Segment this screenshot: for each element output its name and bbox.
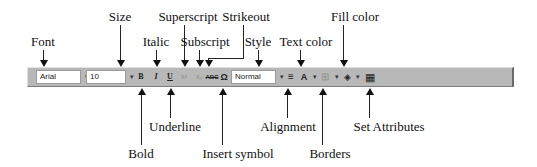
arrow-style — [255, 60, 263, 67]
label-borders: Borders — [309, 147, 350, 161]
borders-button[interactable]: ⊞ — [319, 70, 331, 84]
label-insert-symbol: Insert symbol — [202, 147, 273, 161]
fill-color-button[interactable]: ◈ — [341, 70, 353, 84]
style-select[interactable]: Normal — [231, 70, 276, 84]
arrow-insert-symbol — [219, 88, 227, 95]
arrow-strikeout — [205, 60, 213, 67]
label-superscript: Superscript — [158, 10, 217, 24]
arrow-underline — [167, 88, 175, 95]
leader-line-fill-color — [343, 25, 344, 60]
arrow-text-color — [297, 60, 305, 67]
arrow-borders — [319, 88, 327, 95]
arrow-size — [117, 60, 125, 67]
fill-color-dropdown-arrow-icon[interactable]: ▾ — [354, 70, 362, 84]
text-color-button[interactable]: A — [298, 70, 310, 84]
label-font: Font — [31, 35, 55, 49]
size-select[interactable]: 10 — [86, 70, 126, 84]
leader-line-subscript — [199, 50, 200, 60]
label-fill-color: Fill color — [331, 10, 379, 24]
label-strikeout: Strikeout — [222, 10, 270, 24]
leader-line-insert-symbol — [222, 95, 223, 145]
arrow-fill-color — [340, 60, 348, 67]
set-attributes-button[interactable]: ▦ — [364, 70, 376, 84]
leader-line-italic — [156, 50, 157, 60]
leader-line-font — [43, 50, 44, 60]
italic-button[interactable]: I — [150, 70, 162, 84]
insert-symbol-button[interactable]: Ω — [218, 70, 230, 84]
formatting-toolbar: Arial ▾ 10 ▾ B I U x² x₂ ABC Ω Normal ▾ … — [27, 67, 514, 87]
arrow-font — [40, 60, 48, 67]
arrow-italic — [153, 60, 161, 67]
underline-button[interactable]: U — [164, 70, 176, 84]
arrow-superscript — [181, 60, 189, 67]
leader-line-underline — [170, 95, 171, 118]
arrow-set-attributes — [366, 88, 374, 95]
text-color-dropdown-arrow-icon[interactable]: ▾ — [311, 70, 319, 84]
leader-line-strikeout-horizontal — [208, 58, 244, 59]
leader-line-text-color — [300, 50, 301, 60]
arrow-subscript — [196, 60, 204, 67]
font-select[interactable]: Arial — [36, 70, 81, 84]
leader-line-set-attributes — [369, 95, 370, 118]
label-size: Size — [109, 10, 131, 24]
label-bold: Bold — [128, 147, 153, 161]
arrow-bold — [138, 88, 146, 95]
leader-line-bold — [141, 95, 142, 145]
label-italic: Italic — [143, 35, 170, 49]
label-underline: Underline — [149, 120, 201, 134]
label-set-attributes: Set Attributes — [353, 120, 424, 134]
leader-line-size — [120, 25, 121, 60]
arrow-alignment — [284, 88, 292, 95]
label-text-color: Text color — [280, 35, 333, 49]
alignment-button[interactable]: ≡ — [285, 70, 297, 84]
leader-line-alignment — [287, 95, 288, 118]
leader-line-borders — [322, 95, 323, 145]
leader-line-style — [258, 50, 259, 60]
borders-dropdown-arrow-icon[interactable]: ▾ — [333, 70, 341, 84]
label-subscript: Subscript — [180, 35, 229, 49]
label-alignment: Alignment — [260, 120, 316, 134]
label-style: Style — [245, 35, 272, 49]
superscript-button[interactable]: x² — [178, 70, 190, 84]
bold-button[interactable]: B — [135, 70, 147, 84]
